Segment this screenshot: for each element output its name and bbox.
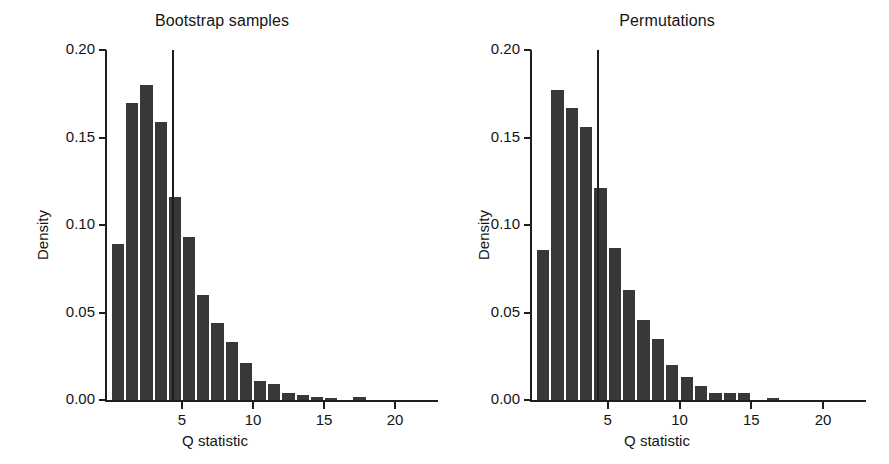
- histogram-bar: [708, 393, 722, 400]
- histogram-bar: [281, 393, 295, 400]
- y-axis-tick-label: 0.00: [474, 390, 520, 407]
- histogram-bar: [168, 197, 182, 400]
- observed-value-line: [597, 50, 599, 400]
- x-axis-tick: [679, 402, 681, 409]
- y-axis-tick: [524, 224, 531, 226]
- histogram-bar: [267, 384, 281, 400]
- x-axis-tick-label: 20: [803, 411, 843, 428]
- x-axis-tick-label: 15: [304, 411, 344, 428]
- histogram-bar: [636, 320, 650, 401]
- y-axis-tick: [99, 399, 106, 401]
- histogram-bar: [608, 248, 622, 400]
- x-axis-line: [105, 400, 438, 402]
- histogram-bar: [579, 127, 593, 400]
- histogram-bar: [111, 244, 125, 400]
- histogram-bar: [694, 386, 708, 400]
- y-axis-tick-label: 0.00: [49, 390, 95, 407]
- histogram-bar: [253, 381, 267, 400]
- y-axis-tick: [524, 49, 531, 51]
- x-axis-tick-label: 15: [731, 411, 771, 428]
- observed-value-line: [172, 50, 174, 400]
- y-axis-tick-label: 0.15: [49, 128, 95, 145]
- plot-area: Density Q statistic 0.000.050.100.150.20…: [0, 0, 444, 464]
- plot-area: Density Q statistic 0.000.050.100.150.20…: [445, 0, 889, 464]
- x-axis-tick: [822, 402, 824, 409]
- histogram-bar: [565, 108, 579, 400]
- y-axis-line: [105, 50, 107, 402]
- x-axis-tick: [323, 402, 325, 409]
- y-axis-tick: [524, 312, 531, 314]
- x-axis-tick: [607, 402, 609, 409]
- y-axis-tick-label: 0.15: [474, 128, 520, 145]
- x-axis-tick-label: 10: [233, 411, 273, 428]
- histogram-bar: [536, 250, 550, 401]
- histogram-bar: [210, 323, 224, 400]
- histogram-bar: [550, 90, 564, 400]
- x-axis-tick-label: 5: [588, 411, 628, 428]
- x-axis-tick: [181, 402, 183, 409]
- x-axis-tick: [252, 402, 254, 409]
- x-axis-tick: [394, 402, 396, 409]
- y-axis-tick: [524, 399, 531, 401]
- histogram-bar: [593, 188, 607, 400]
- x-axis-line: [530, 400, 866, 402]
- y-axis-tick: [99, 137, 106, 139]
- figure-histogram-pair: Bootstrap samples Density Q statistic 0.…: [0, 0, 889, 464]
- x-axis-tick-label: 5: [162, 411, 202, 428]
- histogram-bar: [622, 290, 636, 400]
- y-axis-tick-label: 0.10: [49, 215, 95, 232]
- y-axis-tick: [524, 137, 531, 139]
- histogram-bar: [737, 393, 751, 400]
- histogram-bar: [182, 237, 196, 400]
- x-axis-tick-label: 10: [660, 411, 700, 428]
- histogram-bar: [665, 365, 679, 400]
- histogram-bar: [154, 122, 168, 400]
- y-axis-tick-label: 0.20: [474, 40, 520, 57]
- panel-permutations: Permutations Density Q statistic 0.000.0…: [445, 0, 889, 464]
- histogram-bar: [196, 295, 210, 400]
- histogram-bar: [680, 377, 694, 400]
- histogram-bar: [225, 342, 239, 400]
- x-axis-tick: [750, 402, 752, 409]
- y-axis-tick-label: 0.10: [474, 215, 520, 232]
- y-axis-tick-label: 0.20: [49, 40, 95, 57]
- histogram-bar: [723, 393, 737, 400]
- panel-bootstrap-samples: Bootstrap samples Density Q statistic 0.…: [0, 0, 444, 464]
- histogram-bar: [139, 85, 153, 400]
- y-axis-tick-label: 0.05: [474, 303, 520, 320]
- y-axis-tick-label: 0.05: [49, 303, 95, 320]
- y-axis-tick: [99, 224, 106, 226]
- y-axis-tick: [99, 49, 106, 51]
- histogram-bar: [239, 363, 253, 400]
- histogram-bar: [651, 339, 665, 400]
- histogram-bar: [125, 103, 139, 401]
- y-axis-tick: [99, 312, 106, 314]
- y-axis-line: [530, 50, 532, 402]
- x-axis-tick-label: 20: [375, 411, 415, 428]
